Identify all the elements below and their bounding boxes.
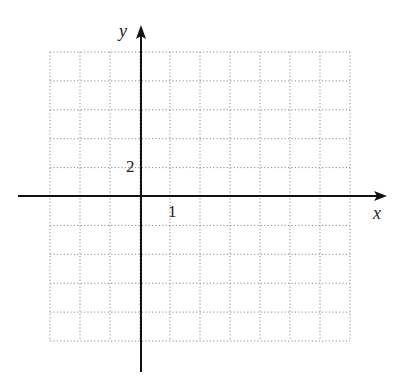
y-tick-label: 2 xyxy=(126,158,135,175)
x-tick-label: 1 xyxy=(168,203,177,220)
coordinate-grid xyxy=(0,0,393,383)
y-axis-label: y xyxy=(119,22,127,40)
x-axis-label: x xyxy=(373,204,381,222)
